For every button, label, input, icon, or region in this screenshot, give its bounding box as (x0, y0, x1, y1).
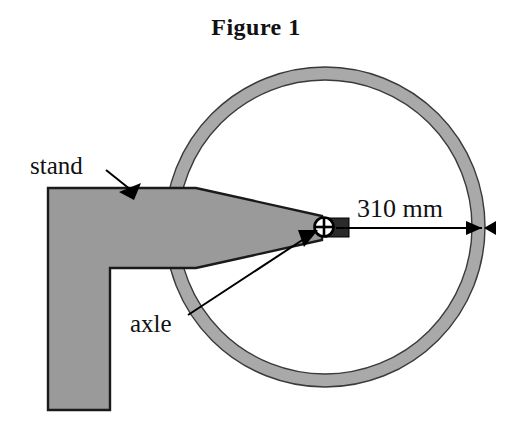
label-stand: stand (30, 152, 83, 180)
label-dimension-310mm: 310 mm (357, 194, 443, 224)
label-axle: axle (130, 310, 172, 338)
figure-diagram: Figure 1 (0, 0, 512, 438)
